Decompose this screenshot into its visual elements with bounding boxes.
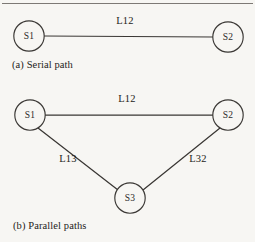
edge-b-l32 xyxy=(143,128,220,190)
node-b-s3: S3 xyxy=(115,183,145,213)
diagram-a-serial-path: L12 S1 S2 (a) Serial path xyxy=(12,15,243,71)
node-b-s3-label: S3 xyxy=(125,193,135,203)
node-a-s2-label: S2 xyxy=(223,32,233,42)
node-b-s1-label: S1 xyxy=(25,110,35,120)
figure-root: L12 S1 S2 (a) Serial path L12 L13 xyxy=(0,0,255,242)
edge-b-l13 xyxy=(38,128,118,190)
edge-label-b-l12: L12 xyxy=(118,93,136,104)
node-a-s2: S2 xyxy=(213,22,243,52)
serial-parallel-path-diagram: L12 S1 S2 (a) Serial path L12 L13 xyxy=(0,0,255,242)
edge-label-b-l13: L13 xyxy=(59,153,77,164)
node-a-s1: S1 xyxy=(14,21,44,51)
node-b-s1: S1 xyxy=(15,100,45,130)
edge-a-l12 xyxy=(44,36,213,37)
edge-label-a-l12: L12 xyxy=(116,15,134,26)
caption-a: (a) Serial path xyxy=(12,59,74,71)
caption-b: (b) Parallel paths xyxy=(13,220,87,232)
node-a-s1-label: S1 xyxy=(24,31,34,41)
node-b-s2: S2 xyxy=(213,100,243,130)
node-b-s2-label: S2 xyxy=(223,110,233,120)
edge-label-b-l32: L32 xyxy=(189,153,207,164)
diagram-b-parallel-paths: L12 L13 L32 S1 S2 S3 (b) Pa xyxy=(13,93,243,232)
